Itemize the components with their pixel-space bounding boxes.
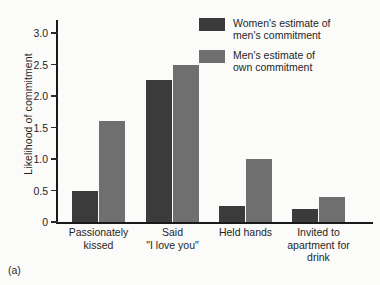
legend-item: Women's estimate of men's commitment bbox=[199, 17, 331, 42]
y-axis-tick bbox=[51, 158, 58, 159]
y-axis-tick bbox=[51, 190, 58, 191]
bar bbox=[173, 65, 199, 223]
y-axis-tick-label: 0 bbox=[8, 216, 48, 228]
legend-swatch bbox=[199, 50, 225, 63]
legend-label: Men's estimate of own commitment bbox=[233, 49, 315, 74]
legend-label: Women's estimate of men's commitment bbox=[233, 17, 331, 42]
x-axis-label: Invited to apartment for drink bbox=[271, 226, 367, 264]
bar-group bbox=[72, 20, 125, 222]
chart-legend: Women's estimate of men's commitmentMen'… bbox=[199, 17, 331, 81]
y-axis-spine bbox=[56, 20, 58, 223]
y-axis-tick-label: 1.0 bbox=[8, 153, 48, 165]
bar bbox=[246, 159, 272, 222]
y-axis-tick bbox=[51, 127, 58, 128]
bar bbox=[146, 80, 172, 222]
bar bbox=[292, 209, 318, 222]
y-axis-tick-label: 2.5 bbox=[8, 59, 48, 71]
y-axis-tick bbox=[51, 221, 58, 222]
y-axis-tick-label: 1.5 bbox=[8, 122, 48, 134]
bar bbox=[72, 191, 98, 223]
legend-item: Men's estimate of own commitment bbox=[199, 49, 331, 74]
legend-swatch bbox=[199, 18, 225, 31]
y-axis-tick-label: 0.5 bbox=[8, 185, 48, 197]
panel-caption: (a) bbox=[8, 264, 21, 276]
bar-chart-figure: Likelihood of commitment 3.02.52.01.51.0… bbox=[0, 0, 380, 285]
y-axis-title: Likelihood of commitment bbox=[22, 24, 34, 204]
y-axis-tick bbox=[51, 95, 58, 96]
y-axis-tick-label: 2.0 bbox=[8, 90, 48, 102]
bar bbox=[99, 121, 125, 222]
y-axis-tick-label: 3.0 bbox=[8, 27, 48, 39]
bar bbox=[219, 206, 245, 222]
bar bbox=[319, 197, 345, 222]
y-axis-tick bbox=[51, 32, 58, 33]
y-axis-tick bbox=[51, 64, 58, 65]
bar-group bbox=[146, 20, 199, 222]
